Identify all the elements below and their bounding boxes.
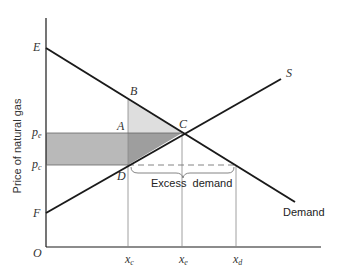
producer-surplus-transfer-rect [46, 133, 128, 165]
label-C: C [179, 117, 188, 131]
label-D: D [116, 169, 126, 183]
label-supply: S [286, 66, 292, 80]
label-O: O [33, 246, 42, 260]
y-axis-title: Price of natural gas [11, 98, 23, 193]
label-xd: xd [232, 252, 243, 267]
label-A: A [116, 119, 125, 133]
label-xe: xe [178, 252, 188, 267]
label-pe: pe [31, 125, 42, 140]
deadweight-loss-producer-triangle [128, 133, 182, 165]
label-E: E [32, 40, 41, 54]
label-F: F [32, 206, 41, 220]
label-xc: xc [124, 252, 134, 267]
label-pc: pc [31, 157, 42, 172]
label-demand: Demand [283, 206, 325, 218]
label-B: B [130, 84, 138, 98]
excess-demand-label: Excess demand [151, 177, 232, 189]
supply-demand-diagram: E F O B A C D pe pc xc xe xd S Demand Ex… [0, 0, 338, 280]
